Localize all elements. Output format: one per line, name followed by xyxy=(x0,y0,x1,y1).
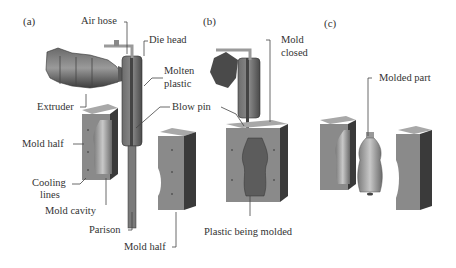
label-plastic-being-molded: Plastic being molded xyxy=(204,226,292,238)
label-cooling-lines-1: Cooling xyxy=(32,177,66,189)
molded-bottle-icon xyxy=(358,132,383,196)
label-mold-closed-2: closed xyxy=(281,47,308,59)
label-cooling-lines-2: lines xyxy=(40,189,60,201)
label-mold-cavity: Mold cavity xyxy=(45,205,96,217)
right-mold-half-a xyxy=(158,128,196,210)
panel-label-b: (b) xyxy=(203,15,216,27)
closed-mold-icon xyxy=(226,120,288,202)
label-extruder: Extruder xyxy=(37,101,74,113)
extruder-b-icon xyxy=(210,52,238,88)
left-mold-half-a xyxy=(82,104,118,180)
label-molten-plastic-1: Molten xyxy=(164,65,194,77)
label-molten-plastic-2: plastic xyxy=(164,78,191,90)
right-mold-half-c xyxy=(396,126,432,210)
panel-label-a: (a) xyxy=(23,15,35,27)
label-molded-part: Molded part xyxy=(379,72,431,84)
left-mold-half-c xyxy=(320,116,356,190)
label-blow-pin: Blow pin xyxy=(172,101,211,113)
label-mold-half-left: Mold half xyxy=(22,138,64,150)
label-air-hose: Air hose xyxy=(81,15,117,27)
label-mold-half-right: Mold half xyxy=(124,241,166,253)
label-die-head: Die head xyxy=(149,34,187,46)
panel-label-c: (c) xyxy=(324,17,336,29)
panel-c-art xyxy=(320,116,432,210)
label-mold-closed-1: Mold xyxy=(281,34,304,46)
extruder-icon xyxy=(46,48,128,88)
panel-b-art xyxy=(210,50,288,202)
label-parison: Parison xyxy=(89,224,121,236)
